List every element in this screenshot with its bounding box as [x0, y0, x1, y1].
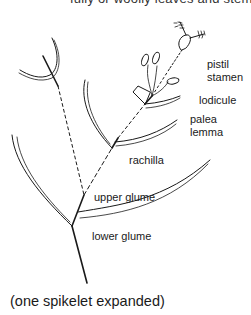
rachilla-dashed — [84, 148, 112, 195]
anther-1 — [140, 53, 150, 66]
rachilla-solid-lower — [72, 195, 84, 226]
spikelet-diagram — [0, 0, 251, 315]
lemma-left — [84, 80, 112, 148]
pedicel-stem — [72, 226, 87, 283]
label-lodicule: lodicule — [199, 94, 236, 106]
rachilla-solid-upper — [145, 96, 152, 104]
top-dashed — [58, 86, 84, 195]
lemma-right — [115, 120, 177, 142]
upper-glume — [78, 160, 210, 212]
label-lower-glume: lower glume — [92, 230, 151, 242]
diagram-caption: (one spikelet expanded) — [10, 293, 165, 309]
label-palea: palea — [190, 113, 217, 125]
label-stamen: stamen — [207, 71, 243, 83]
rachilla-dashed-upper — [118, 104, 145, 138]
label-upper-glume: upper glume — [94, 191, 155, 203]
lower-glume — [12, 135, 72, 226]
top-bract-arc — [20, 38, 57, 77]
anther-2 — [151, 51, 161, 64]
label-rachilla: rachilla — [129, 154, 164, 166]
label-pistil: pistil — [207, 58, 229, 70]
label-lemma: lemma — [190, 126, 223, 138]
top-bract-stalk — [43, 56, 58, 86]
rachilla-to-flower — [170, 50, 182, 68]
ovary — [179, 35, 191, 50]
stigma-1 — [180, 22, 186, 35]
rachilla-solid-mid — [112, 138, 118, 148]
anther-3 — [167, 77, 180, 85]
